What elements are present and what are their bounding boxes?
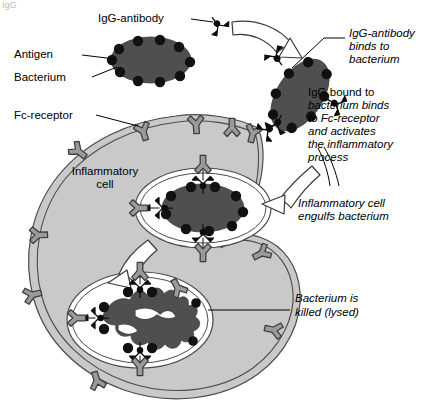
bacterium-label: Bacterium bbox=[14, 71, 66, 83]
antigen-label: Antigen bbox=[14, 48, 53, 60]
annotation-binds-line2: binds to bbox=[349, 40, 390, 52]
inflammatory-cell-label-line1: Inflammatory bbox=[72, 165, 139, 177]
antigen-dot-icon bbox=[99, 324, 109, 334]
antigen-dot-icon bbox=[115, 67, 125, 77]
antigen-dot-icon bbox=[185, 57, 195, 67]
antigen-dot-icon bbox=[123, 343, 133, 353]
leader-bacterium bbox=[92, 67, 117, 77]
antigen-dot-icon bbox=[155, 35, 165, 45]
annotation-binds-line3: bacterium bbox=[349, 53, 400, 65]
fc-receptor-label: Fc-receptor bbox=[14, 109, 73, 121]
antigen-dot-icon bbox=[175, 71, 185, 81]
antigen-dot-icon bbox=[133, 76, 143, 86]
inflammatory-cell-label-line2: cell bbox=[96, 178, 113, 190]
antigen-dot-icon bbox=[227, 221, 237, 231]
annotation-activates-line6: process bbox=[307, 151, 349, 163]
antigen-dot-icon bbox=[181, 224, 191, 234]
antigen-dot-icon bbox=[133, 36, 143, 46]
leader-fc-receptor bbox=[96, 115, 138, 126]
free-bacterium bbox=[107, 35, 195, 87]
annotation-activates-line2: bacterium binds bbox=[308, 99, 389, 111]
figure-canvas: IgG Inflammatory cell bbox=[0, 0, 443, 419]
annotation-binds-line1: IgG-antibody bbox=[349, 27, 416, 39]
antigen-dot-icon bbox=[147, 343, 157, 353]
antigen-dot-icon bbox=[166, 191, 176, 201]
antigen-dot-icon bbox=[231, 191, 241, 201]
antigen-dot-icon bbox=[238, 207, 248, 217]
caption-fragment: IgG bbox=[2, 0, 17, 10]
annotation-killed-line2: killed (lysed) bbox=[295, 306, 359, 318]
immunology-diagram: IgG Inflammatory cell bbox=[0, 0, 443, 419]
annotation-activates-line4: and activates bbox=[308, 125, 376, 137]
antigen-dot-icon bbox=[114, 44, 124, 54]
igg-antibody-label: IgG-antibody bbox=[98, 12, 164, 24]
antigen-dot-icon bbox=[99, 302, 109, 312]
antigen-dot-icon bbox=[174, 42, 184, 52]
antigen-dot-icon bbox=[191, 298, 201, 308]
antigen-dot-icon bbox=[188, 336, 198, 346]
antigen-dot-icon bbox=[155, 77, 165, 87]
annotation-activates-line1: IgG bound to bbox=[308, 86, 375, 98]
annotation-engulfs-line1: Inflammatory cell bbox=[298, 197, 385, 209]
annotation-activates-line5: the inflammatory bbox=[308, 138, 394, 150]
antigen-dot-icon bbox=[107, 55, 117, 65]
antigen-dot-icon bbox=[123, 287, 133, 297]
antigen-dot-icon bbox=[186, 182, 196, 192]
antigen-dot-icon bbox=[147, 287, 157, 297]
process-arrow-icon bbox=[232, 21, 302, 58]
annotation-activates-line3: to Fc-receptor bbox=[308, 112, 381, 124]
antigen-dot-icon bbox=[210, 182, 220, 192]
annotation-killed-line1: Bacterium is bbox=[295, 292, 359, 304]
annotation-engulfs-line2: engulfs bacterium bbox=[298, 210, 389, 222]
igg-antibody-icon[interactable] bbox=[204, 11, 231, 37]
leader-igg-antibody bbox=[191, 19, 213, 22]
